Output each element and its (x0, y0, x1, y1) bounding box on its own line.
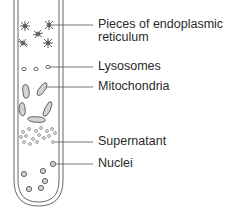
lysosomes (22, 65, 50, 70)
endoplasmic-reticulum-pieces (18, 20, 53, 48)
label-nuclei: Nuclei (98, 157, 133, 170)
label-lysosomes: Lysosomes (98, 60, 161, 73)
centrifuge-tube-diagram: Pieces of endoplasmic reticulum Lysosome… (0, 0, 243, 212)
label-endoplasmic-reticulum: Pieces of endoplasmic reticulum (98, 18, 223, 44)
mitochondria (19, 83, 52, 123)
label-er-line2: reticulum (98, 31, 223, 44)
label-supernatant: Supernatant (98, 135, 166, 148)
nuclei (21, 161, 55, 191)
label-mitochondria: Mitochondria (98, 80, 170, 93)
supernatant-particles (20, 127, 57, 146)
